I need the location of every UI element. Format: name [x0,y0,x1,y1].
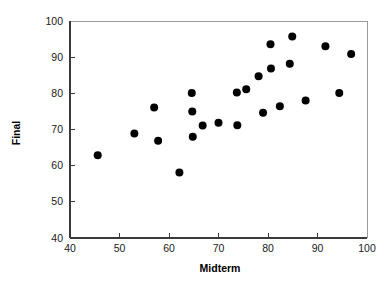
data-point [288,33,296,41]
data-point [266,40,274,48]
data-point [189,133,197,141]
x-tick-label: 50 [114,242,126,254]
y-tick-label: 70 [51,123,63,135]
data-point [335,89,343,97]
x-tick-label: 40 [64,242,76,254]
data-point [321,42,329,50]
y-axis-title: Final [10,121,22,146]
y-tick-label: 60 [51,159,63,171]
x-tick-label: 90 [312,242,324,254]
data-point [302,97,310,105]
data-point [188,89,196,97]
data-point [215,119,223,127]
figure-background [0,0,392,292]
data-point [188,107,196,115]
data-point [233,89,241,97]
data-point [242,85,250,93]
data-point [154,137,162,145]
data-point [255,72,263,80]
x-tick-label: 100 [358,242,376,254]
data-point [150,103,158,111]
x-tick-label: 80 [262,242,274,254]
x-axis-title: Midterm [200,262,241,274]
y-tick-label: 40 [51,232,63,244]
data-point [199,122,207,130]
data-point [286,60,294,68]
data-point [233,121,241,129]
y-tick-label: 50 [51,195,63,207]
data-point [347,50,355,58]
x-tick-label: 70 [213,242,225,254]
data-point [130,129,138,137]
data-point [175,169,183,177]
y-tick-label: 90 [51,51,63,63]
data-point [259,109,267,117]
data-point [267,64,275,72]
plot-canvas: 405060708090100 405060708090100 Midterm … [0,0,392,292]
y-tick-label: 80 [51,87,63,99]
y-tick-label: 100 [45,15,63,27]
data-point [94,151,102,159]
scatter-plot-figure: 405060708090100 405060708090100 Midterm … [0,0,392,292]
data-point [276,102,284,110]
x-tick-label: 60 [163,242,175,254]
